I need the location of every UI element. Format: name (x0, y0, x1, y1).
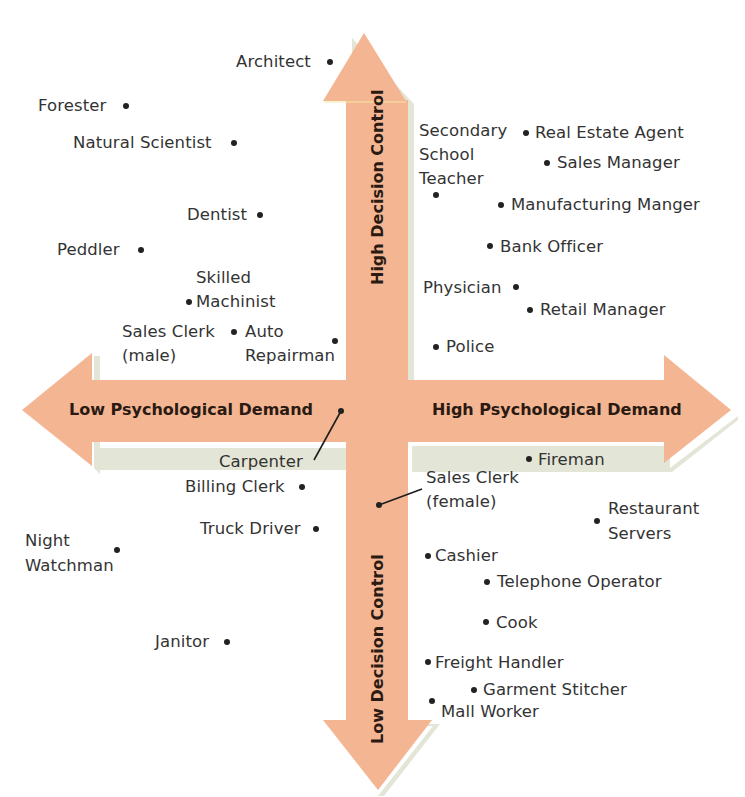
point-garment-stitcher (471, 687, 477, 693)
label-carpenter: Carpenter (219, 451, 303, 472)
axis-label-high-control: High Decision Control (368, 90, 387, 286)
axis-label-low-control: Low Decision Control (368, 554, 387, 744)
label-teacher-line3: Teacher (419, 168, 484, 189)
label-teacher-line2: School (419, 144, 474, 165)
label-night-watchman-line1: Night (25, 530, 70, 551)
point-bank-officer (487, 243, 493, 249)
point-cashier (425, 553, 431, 559)
point-real-estate-agent (523, 130, 529, 136)
label-skilled-machinist-line2: Machinist (196, 291, 275, 312)
point-auto-repairman (332, 338, 338, 344)
label-fireman: Fireman (538, 449, 605, 470)
label-sales-clerk-female-line1: Sales Clerk (426, 467, 519, 488)
point-mall-worker (429, 698, 435, 704)
label-restaurant-servers-line1: Restaurant (608, 498, 699, 519)
point-police (433, 344, 439, 350)
cropped-text-fragment: · (76, 0, 80, 5)
label-janitor: Janitor (155, 631, 209, 652)
label-telephone-operator: Telephone Operator (497, 571, 662, 592)
point-carpenter (338, 408, 344, 414)
point-sales-clerk-female (376, 502, 382, 508)
label-bank-officer: Bank Officer (500, 236, 603, 257)
label-billing-clerk: Billing Clerk (185, 476, 285, 497)
label-auto-repairman-line1: Auto (245, 321, 284, 342)
point-billing-clerk (299, 484, 305, 490)
point-manufacturing-manger (498, 202, 504, 208)
point-cook (483, 619, 489, 625)
up-arrowhead (323, 33, 406, 101)
label-sales-clerk-male-line2: (male) (122, 345, 176, 366)
label-sales-manager: Sales Manager (557, 152, 680, 173)
label-skilled-machinist-line1: Skilled (196, 267, 251, 288)
point-telephone-operator (484, 579, 490, 585)
label-garment-stitcher: Garment Stitcher (483, 679, 627, 700)
point-sales-clerk-male (231, 329, 237, 335)
point-truck-driver (313, 526, 319, 532)
label-dentist: Dentist (187, 204, 247, 225)
label-architect: Architect (236, 51, 311, 72)
label-physician: Physician (423, 277, 501, 298)
point-forester (123, 103, 129, 109)
label-teacher-line1: Secondary (419, 120, 507, 141)
label-restaurant-servers-line2: Servers (608, 523, 671, 544)
label-freight-handler: Freight Handler (435, 652, 564, 673)
point-peddler (138, 247, 144, 253)
point-physician (513, 284, 519, 290)
label-peddler: Peddler (57, 239, 120, 260)
label-forester: Forester (38, 95, 106, 116)
point-secondary-school-teacher (433, 192, 439, 198)
label-cashier: Cashier (435, 545, 498, 566)
axis-label-high-demand: High Psychological Demand (432, 400, 682, 419)
point-night-watchman (114, 547, 120, 553)
label-cook: Cook (496, 612, 538, 633)
point-skilled-machinist (186, 299, 192, 305)
label-truck-driver: Truck Driver (200, 518, 301, 539)
label-auto-repairman-line2: Repairman (245, 345, 335, 366)
point-natural-scientist (231, 140, 237, 146)
point-janitor (224, 639, 230, 645)
point-retail-manager (527, 307, 533, 313)
label-mall-worker: Mall Worker (441, 701, 539, 722)
label-sales-clerk-male-line1: Sales Clerk (122, 321, 215, 342)
point-fireman (526, 456, 532, 462)
label-real-estate-agent: Real Estate Agent (535, 122, 684, 143)
axis-label-low-demand: Low Psychological Demand (69, 400, 313, 419)
point-dentist (257, 212, 263, 218)
label-natural-scientist: Natural Scientist (73, 132, 212, 153)
label-police: Police (446, 336, 494, 357)
point-sales-manager (544, 160, 550, 166)
point-restaurant-servers (594, 518, 600, 524)
label-night-watchman-line2: Watchman (25, 555, 114, 576)
label-sales-clerk-female-line2: (female) (426, 491, 497, 512)
point-architect (327, 59, 333, 65)
job-strain-diagram: · Low Psychological Demand High Psycholo… (0, 0, 745, 797)
label-manufacturing-manger: Manufacturing Manger (511, 194, 700, 215)
point-freight-handler (425, 659, 431, 665)
label-retail-manager: Retail Manager (540, 299, 666, 320)
